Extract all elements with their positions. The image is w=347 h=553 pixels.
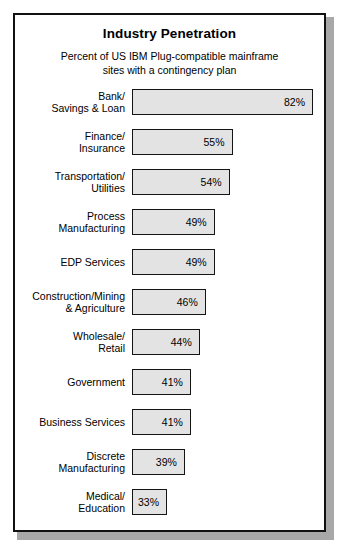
bar: 44% (132, 329, 200, 355)
bar-category-label-line-1: Finance/ (85, 130, 125, 143)
bar-category-label-line-1: Process (87, 210, 125, 223)
bar-category-label: ProcessManufacturing (7, 209, 125, 235)
bar-value-label: 54% (201, 176, 229, 188)
bar-category-label-line-1: Government (67, 376, 125, 389)
bar: 55% (132, 129, 233, 155)
bar-row: Medical/Education33% (15, 489, 324, 529)
bar-value-label: 46% (177, 296, 205, 308)
bar-track: 39% (132, 449, 185, 475)
bar-track: 46% (132, 289, 206, 315)
bar-category-label-line-1: Medical/ (86, 490, 125, 503)
bar-track: 41% (132, 409, 191, 435)
bar-row: Transportation/Utilities54% (15, 169, 324, 209)
chart-subtitle: Percent of US IBM Plug-compatible mainfr… (15, 49, 324, 77)
bar-category-label-line-2: & Agriculture (65, 302, 125, 315)
bar-track: 82% (132, 89, 313, 115)
bar-row: Bank/Savings & Loan82% (15, 89, 324, 129)
bar-track: 44% (132, 329, 200, 355)
bar-category-label: DiscreteManufacturing (7, 449, 125, 475)
bar: 39% (132, 449, 185, 475)
bar: 41% (132, 369, 191, 395)
bar-value-label: 82% (284, 96, 312, 108)
bar-category-label: EDP Services (7, 249, 125, 275)
bar-category-label: Transportation/Utilities (7, 169, 125, 195)
bar: 49% (132, 249, 215, 275)
bar-row: EDP Services49% (15, 249, 324, 289)
bar-category-label-line-2: Utilities (91, 182, 125, 195)
bar-track: 54% (132, 169, 230, 195)
bar-value-label: 49% (186, 256, 214, 268)
bar-category-label-line-1: Business Services (39, 416, 125, 429)
chart-title: Industry Penetration (15, 26, 324, 41)
bar-category-label-line-1: EDP Services (60, 256, 125, 269)
bar-row: DiscreteManufacturing39% (15, 449, 324, 489)
bar-category-label-line-2: Retail (98, 342, 125, 355)
bar-row: Construction/Mining& Agriculture46% (15, 289, 324, 329)
bar-category-label: Business Services (7, 409, 125, 435)
bar-row: Government41% (15, 369, 324, 409)
bar-category-label: Construction/Mining& Agriculture (7, 289, 125, 315)
bar-value-label: 33% (138, 496, 166, 508)
bar-category-label-line-1: Construction/Mining (32, 290, 125, 303)
bar-category-label-line-2: Manufacturing (58, 222, 125, 235)
bar-category-label: Government (7, 369, 125, 395)
bar-value-label: 55% (204, 136, 232, 148)
chart-subtitle-line-2: sites with a contingency plan (15, 63, 324, 77)
bar-value-label: 41% (162, 376, 190, 388)
chart-page: Industry Penetration Percent of US IBM P… (0, 0, 347, 553)
chart-panel: Industry Penetration Percent of US IBM P… (13, 13, 326, 532)
bar-category-label: Bank/Savings & Loan (7, 89, 125, 115)
bar: 33% (132, 489, 167, 515)
bar: 54% (132, 169, 230, 195)
bar-row: ProcessManufacturing49% (15, 209, 324, 249)
bar-track: 33% (132, 489, 167, 515)
bar-category-label-line-2: Education (78, 502, 125, 515)
bar-track: 49% (132, 249, 215, 275)
bar-category-label-line-1: Transportation/ (55, 170, 125, 183)
bar-category-label-line-1: Bank/ (98, 90, 125, 103)
chart-subtitle-line-1: Percent of US IBM Plug-compatible mainfr… (15, 49, 324, 63)
bar-row: Finance/Insurance55% (15, 129, 324, 169)
bar-row: Business Services41% (15, 409, 324, 449)
bar-category-label: Medical/Education (7, 489, 125, 515)
bar-category-label: Finance/Insurance (7, 129, 125, 155)
bar-track: 49% (132, 209, 215, 235)
bar-value-label: 44% (171, 336, 199, 348)
bar: 41% (132, 409, 191, 435)
bar-category-label-line-1: Wholesale/ (73, 330, 125, 343)
bar-value-label: 49% (186, 216, 214, 228)
bar-category-label-line-2: Manufacturing (58, 462, 125, 475)
bar-category-label: Wholesale/Retail (7, 329, 125, 355)
bar: 46% (132, 289, 206, 315)
bar-row: Wholesale/Retail44% (15, 329, 324, 369)
bar: 82% (132, 89, 313, 115)
bar-value-label: 39% (156, 456, 184, 468)
bar-category-label-line-2: Savings & Loan (51, 102, 125, 115)
bar-track: 55% (132, 129, 233, 155)
bar-chart-plot: Bank/Savings & Loan82%Finance/Insurance5… (15, 89, 324, 529)
bar-track: 41% (132, 369, 191, 395)
bar: 49% (132, 209, 215, 235)
bar-category-label-line-1: Discrete (86, 450, 125, 463)
bar-category-label-line-2: Insurance (79, 142, 125, 155)
bar-value-label: 41% (162, 416, 190, 428)
